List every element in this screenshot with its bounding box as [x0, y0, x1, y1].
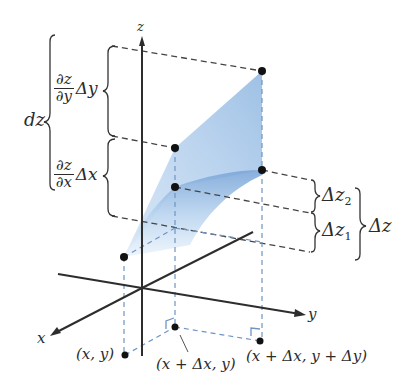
point-right: [258, 166, 266, 174]
point-xy: [122, 352, 129, 359]
point-mid-upper: [171, 144, 179, 152]
leader-line: [180, 335, 188, 352]
point-x-plus-dx-y-plus-dy: [257, 338, 264, 345]
z-axis-label: z: [137, 20, 144, 33]
y-axis: [142, 288, 300, 314]
brace-dzdy: [103, 46, 115, 136]
y-arrowhead: [294, 309, 306, 317]
brace-dzdx: [103, 139, 115, 216]
point-mid-lower: [171, 183, 179, 191]
y-axis-label: y: [308, 307, 316, 322]
brace-dz1: [311, 213, 320, 252]
partial-y-term: ∂z ∂y Δy: [54, 72, 98, 105]
x-arrowhead: [50, 327, 61, 336]
partial-y-denominator: ∂y: [56, 89, 72, 105]
delta-z2-label: Δz2: [322, 186, 351, 207]
x-axis-label: x: [37, 331, 45, 346]
delta-y-label: Δy: [76, 78, 98, 98]
x-axis: [55, 288, 142, 333]
y-axis-neg: [58, 274, 142, 288]
point-top: [258, 67, 266, 75]
point-x-plus-dx: [172, 324, 179, 331]
partial-x-denominator: ∂x: [56, 175, 72, 191]
delta-z1-label: Δz1: [322, 221, 351, 242]
dz-label: dz: [24, 111, 45, 129]
z-arrowhead: [139, 36, 145, 46]
brace-dz2: [311, 180, 320, 212]
delta-z-label: Δz: [369, 217, 391, 235]
partial-x-term: ∂z ∂x Δx: [54, 158, 98, 191]
brace-dz: [355, 188, 366, 260]
delta-x-label: Δx: [76, 164, 98, 184]
point-label-xy: (x, y): [76, 347, 114, 362]
point-label-x-plus-dx: (x + Δx, y): [156, 357, 236, 372]
point-label-x-plus-dx-y-plus-dy: (x + Δx, y + Δy): [246, 349, 367, 364]
differential-diagram: [0, 0, 416, 391]
point-surface-origin: [120, 253, 128, 261]
